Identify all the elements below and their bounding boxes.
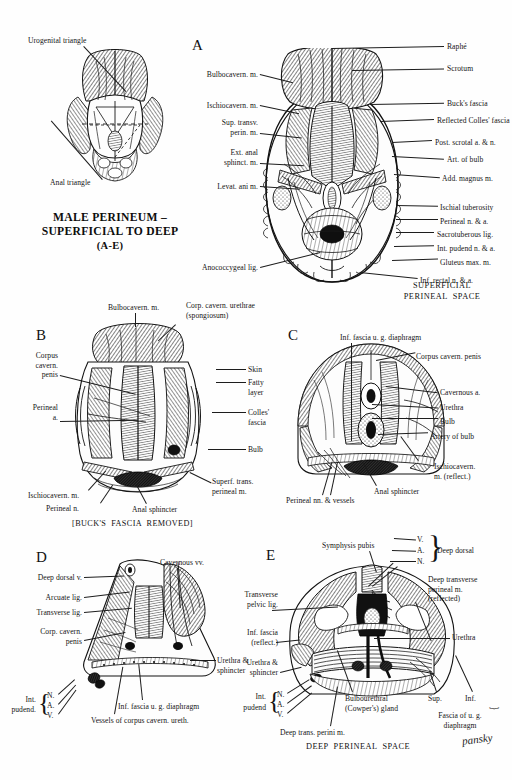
panel-c-label-perineal-nn-vessels: Perineal nn. & vessels	[286, 496, 355, 506]
panel-e-deep-dorsal-title: Deep dorsal	[437, 546, 474, 556]
panel-a-caption-line2: PERINEAL SPACE	[378, 292, 506, 303]
leader-a-r11	[394, 245, 434, 246]
panel-e-deep-dorsal-v: V.	[417, 535, 424, 545]
panel-c-label-artery-of-bulb: Artery of bulb	[430, 432, 474, 442]
panel-a-label-add-magnus: Add. magnus m.	[442, 174, 493, 184]
panel-d-letter: D	[36, 550, 47, 565]
panel-d-label-deep-dorsal-v: Deep dorsal v.	[12, 573, 82, 583]
panel-a-label-ischial-tuberosity: Ischial tuberosity	[440, 203, 493, 213]
panel-e-pudend-title-2: pudend	[222, 703, 266, 713]
panel-e-label-transverse-pelvic-lig: Transverse pelvic lig.	[222, 590, 278, 609]
panel-a-label-art-of-bulb: Art. of bulb	[447, 155, 483, 165]
panel-b-letter: B	[36, 328, 46, 343]
panel-b-label-skin: Skin	[248, 365, 262, 375]
leader-c-r4	[372, 418, 438, 419]
panel-d-label-arcuate-lig: Arcuate lig.	[12, 593, 82, 603]
panel-b-label-colles-fascia: Colles' fascia	[248, 408, 269, 427]
artist-signature: pansky	[461, 731, 493, 747]
panel-e-pudend-title-1: Int.	[234, 692, 266, 702]
leader-e-dd3	[390, 561, 416, 562]
panel-c-label-inf-fascia-ug: Inf. fascia u. g. diaphragm	[340, 333, 421, 343]
leader-b-r3	[212, 412, 246, 413]
panel-a-label-anococcygeal: Anococcygeal lig.	[168, 263, 258, 273]
panel-e-fascia-caption-2: diaphragm	[420, 721, 500, 731]
panel-b-label-bulb: Bulb	[248, 445, 263, 455]
panel-c-label-corpus-cavern-penis: Corpus cavern. penis	[416, 352, 481, 362]
panel-a-label-perineal-n-a: Perineal n. & a.	[440, 217, 488, 227]
panel-d-label-vessels-corpus-cavern: Vessels of corpus cavern. ureth.	[91, 716, 189, 726]
plate-title-line3: (A-E)	[20, 239, 200, 253]
panel-b-label-ischiocavernosus: Ischiocavern. m.	[28, 491, 79, 501]
panel-d-pudend-n: N.	[47, 691, 54, 701]
panel-d-pudend-v: V.	[47, 711, 54, 721]
panel-d-pudend-a: A.	[47, 701, 54, 711]
panel-b-label-bulbocavernosus: Bulbocavern. m.	[108, 303, 159, 313]
panel-e-label-urethra-sphincter: Urethra & sphincter	[214, 658, 278, 677]
panel-a-label-sup-transv-perineal: Sup. transv. perin. m.	[176, 118, 258, 137]
leader-e-dd1	[394, 538, 416, 540]
panel-c-art	[288, 340, 454, 490]
panel-e-label-symphysis-pubis: Symphysis pubis	[322, 541, 374, 551]
panel-a-label-reflected-colles: Reflected Colles' fascia	[437, 116, 510, 126]
leader-e-r2	[374, 638, 450, 639]
orientation-figure-art	[60, 45, 170, 195]
panel-d-label-inf-fascia-ug: Inf. fascia u. g. diaphragm	[118, 702, 199, 712]
panel-a-label-ext-anal-sphincter: Ext. anal sphinct. m.	[176, 148, 258, 167]
panel-d-label-transverse-lig: Transverse lig.	[12, 608, 82, 618]
panel-a-art	[258, 48, 406, 288]
panel-a-letter: A	[192, 38, 203, 53]
panel-c-label-cavernous-a: Cavernous a.	[440, 388, 480, 398]
panel-c-label-anal-sphincter: Anal sphincter	[374, 487, 419, 497]
panel-a-label-levator-ani: Levat. ani m.	[180, 182, 258, 192]
plate-title-line1: MALE PERINEUM –	[20, 211, 200, 225]
panel-a-label-scrotum: Scrotum	[447, 64, 473, 74]
panel-b-caption: [BUCK'S FASCIA REMOVED]	[72, 519, 193, 528]
panel-a-label-sacrotuberous: Sacrotuberous lig.	[437, 230, 493, 240]
panel-c-label-bulb: Bulb	[440, 417, 455, 427]
panel-e-pudend-a: A.	[277, 700, 284, 710]
panel-a-label-bulbocavernosus: Bulbocavern. m.	[180, 70, 258, 80]
panel-c-label-urethra: Urethra	[440, 403, 464, 413]
panel-e-deep-dorsal-n: N.	[417, 557, 424, 567]
panel-a-label-gluteus-max: Gluteus max. m.	[440, 258, 491, 268]
leader-b-t1	[135, 313, 136, 327]
plate-page: Urogenital triangle Anal triangle MALE P…	[0, 0, 512, 780]
panel-a-label-raphe: Raphé	[447, 42, 467, 52]
panel-d-pudend-title-1: Int.	[2, 695, 36, 705]
panel-e-label-deep-transverse-perineal: Deep transverse perineal m. (reflected)	[428, 575, 477, 604]
plate-title-line2: SUPERFICIAL TO DEEP	[20, 225, 200, 239]
panel-e-fascia-underbrace: ⏟	[424, 701, 512, 710]
panel-e-pudend-n: N.	[277, 690, 284, 700]
leader-a-r12	[392, 258, 438, 260]
panel-b-label-corpus-cavern-penis: Corpus cavern. penis	[8, 351, 58, 380]
leader-b-r1	[216, 369, 246, 370]
panel-d-label-cavernous-vv: Cavernous vv.	[160, 558, 204, 568]
panel-a-label-post-scrotal: Post. scrotal a. & n.	[435, 138, 496, 148]
panel-b-label-perineal-n: Perineal n.	[46, 504, 79, 514]
panel-b-label-perineal-a: Perineal a.	[8, 403, 58, 422]
panel-d-pudend-title-2: pudend.	[2, 705, 36, 715]
panel-e-pudend-v: V.	[277, 710, 284, 720]
leader-d-r1	[190, 660, 216, 661]
leader-a-r10	[396, 232, 434, 233]
leader-a-r9	[396, 219, 438, 220]
panel-b-art	[58, 318, 218, 506]
panel-e-caption: DEEP PERINEAL SPACE	[268, 742, 448, 753]
panel-e-deep-dorsal-a: A.	[417, 546, 424, 556]
leader-b-r2	[216, 382, 246, 383]
panel-c-label-ischiocavernosus-reflected: Ischiocavern. m. (reflect.)	[434, 462, 475, 481]
panel-a-label-bucks-fascia: Buck's fascia	[447, 99, 488, 109]
panel-b-label-fatty-layer: Fatty layer	[248, 378, 264, 397]
panel-b-label-anal-sphincter: Anal sphincter	[132, 505, 177, 515]
label-anal-triangle: Anal triangle	[50, 178, 91, 188]
leader-e-dd2	[392, 550, 416, 552]
panel-d-art	[78, 558, 220, 696]
panel-e-label-deep-trans-perini: Deep trans. perini m.	[280, 728, 345, 738]
leader-c-t1	[351, 343, 352, 441]
panel-e-label-urethra: Urethra	[452, 633, 476, 643]
label-urogenital-triangle: Urogenital triangle	[28, 36, 87, 46]
leader-a-r3	[370, 103, 444, 105]
panel-e-label-inf-fascia-reflect: Inf. fascia (reflect.)	[222, 628, 278, 647]
panel-d-label-corp-cavern-penis: Corp. cavern. penis	[10, 627, 82, 646]
panel-b-label-superf-trans-perineal: Superf. trans. perineal m.	[212, 477, 253, 496]
